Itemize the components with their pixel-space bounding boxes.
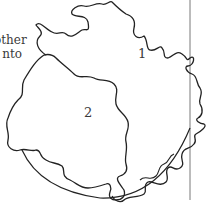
region-1-boundary — [36, 2, 205, 202]
region-diagram — [0, 0, 216, 216]
side-text-line-2: nto — [0, 47, 22, 61]
side-text: other nto — [0, 33, 28, 61]
outer-circle — [22, 128, 190, 198]
region-2-label: 2 — [84, 106, 92, 120]
diagram-canvas: other nto 1 2 — [0, 0, 216, 216]
region-2-boundary — [7, 54, 129, 200]
side-text-line-1: other — [0, 33, 22, 47]
region-1-label: 1 — [138, 47, 146, 61]
